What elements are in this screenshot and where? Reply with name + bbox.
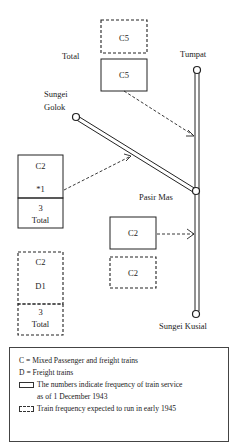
arrow-mid-to-mainline [157,229,194,239]
label-sungei: Sungei [44,89,68,99]
legend-item-solid-cont: as of 1 December 1943 [37,392,107,402]
box-left-solid-line2: *1 [36,184,45,194]
label-golok: Golok [44,102,66,112]
station-kusial-marker [193,311,200,318]
box-left-dashed-line1: C2 [36,257,46,267]
box-left-solid-total-num: 3 [38,203,42,213]
legend-item-d: D = Freight trains [19,368,73,378]
box-left-dashed-total-label: Total [32,319,50,329]
station-pasirmas-marker [193,188,200,195]
box-mid-dashed-text: C2 [128,268,138,278]
box-left-dashed-total-num: 3 [38,307,42,317]
solid-box-swatch-icon [19,382,34,388]
box-mid-solid-text: C2 [128,228,138,238]
legend-item-solid-text: The numbers indicate frequency of train … [37,380,182,389]
label-pasir-mas: Pasir Mas [139,192,173,202]
station-golok-marker [73,114,80,121]
box-top-solid-text: C5 [119,70,129,80]
box-left-solid-total-label: Total [32,215,50,225]
box-top-dashed-text: C5 [119,33,129,43]
legend: C = Mixed Passenger and freight trains D… [9,347,229,442]
legend-item-c: C = Mixed Passenger and freight trains [19,356,138,366]
legend-item-dashed-text: Train frequency expected to run in early… [37,404,176,413]
legend-item-solid: The numbers indicate frequency of train … [19,380,182,390]
branch-line-golok-pasirmas [75,116,195,193]
label-top-total: Total [62,51,80,61]
station-tumpat-marker [194,67,201,74]
box-left-solid-line1: C2 [36,161,46,171]
arrow-left-to-branch [64,154,131,190]
dashed-box-swatch-icon [19,406,34,412]
box-left-dashed-line2: D1 [35,281,45,291]
arrow-top-to-mainline [124,91,194,136]
legend-item-dashed: Train frequency expected to run in early… [19,404,176,414]
label-sungei-kusial: Sungei Kusial [159,321,208,331]
label-tumpat: Tumpat [180,49,207,59]
